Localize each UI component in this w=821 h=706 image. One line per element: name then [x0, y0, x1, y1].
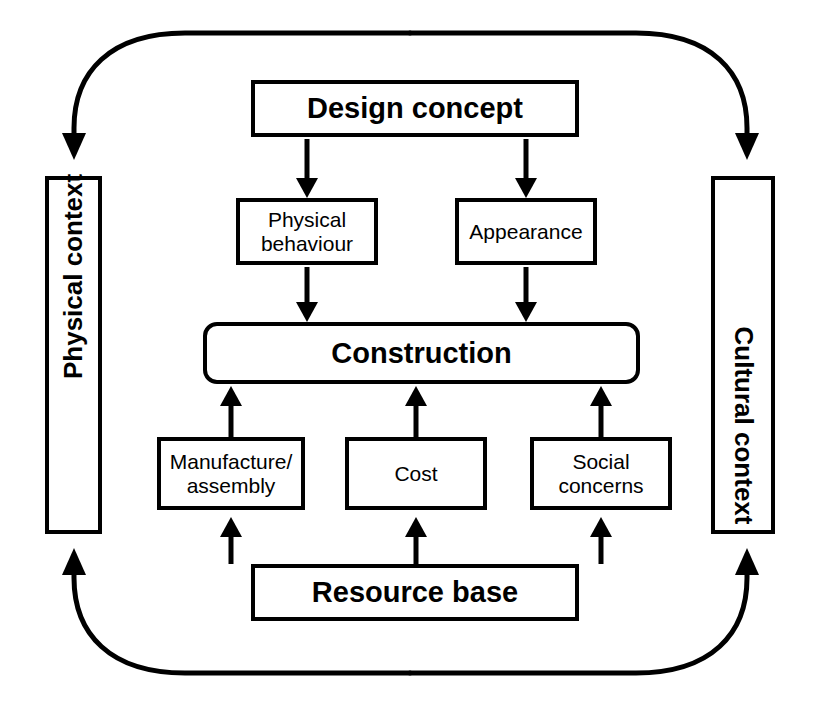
node-construction-label: Construction	[207, 337, 636, 369]
connector-manufacture-to-construction	[220, 386, 242, 437]
node-physical-behaviour-label: Physical behaviour	[240, 208, 374, 255]
node-manufacture-assembly[interactable]: Manufacture/ assembly	[157, 437, 305, 510]
node-physical-context[interactable]: Physical context	[45, 176, 102, 534]
node-design-concept[interactable]: Design concept	[251, 80, 579, 137]
connector-design-to-physical-behaviour	[296, 139, 318, 198]
connector-resource-base-to-social-concerns	[590, 517, 612, 564]
node-social-concerns-label: Social concerns	[534, 450, 668, 497]
node-resource-base[interactable]: Resource base	[251, 564, 579, 621]
node-manufacture-assembly-label: Manufacture/ assembly	[161, 450, 301, 497]
connector-design-to-appearance	[515, 139, 537, 198]
node-cost[interactable]: Cost	[345, 437, 487, 510]
connector-cost-to-construction	[405, 386, 427, 437]
node-physical-behaviour[interactable]: Physical behaviour	[236, 198, 378, 265]
connector-social-concerns-to-construction	[590, 386, 612, 437]
connector-appearance-to-construction	[515, 267, 537, 322]
node-cultural-context-label: Cultural context	[728, 327, 757, 383]
diagram-canvas: Design concept Physical behaviour Appear…	[0, 0, 821, 706]
node-resource-base-label: Resource base	[255, 576, 575, 608]
node-cultural-context[interactable]: Cultural context	[711, 176, 775, 534]
node-construction[interactable]: Construction	[203, 322, 640, 384]
node-social-concerns[interactable]: Social concerns	[530, 437, 672, 510]
node-physical-context-label: Physical context	[59, 330, 88, 379]
node-cost-label: Cost	[349, 462, 483, 486]
connector-physical-behaviour-to-construction	[296, 267, 318, 322]
connector-resource-base-to-manufacture	[220, 517, 242, 564]
node-appearance-label: Appearance	[459, 220, 593, 244]
connector-resource-base-to-cost	[405, 517, 427, 564]
node-design-concept-label: Design concept	[255, 92, 575, 124]
node-appearance[interactable]: Appearance	[455, 198, 597, 265]
